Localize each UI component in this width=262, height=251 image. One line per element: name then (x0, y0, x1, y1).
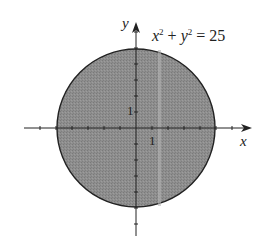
circle-graph: y x 1 1 x2 + y2 = 25 (0, 0, 262, 251)
equation-plus: + (164, 27, 181, 44)
x-tick-label-1: 1 (149, 134, 156, 147)
equation-rhs: = 25 (192, 27, 225, 44)
circle-equation: x2 + y2 = 25 (152, 28, 225, 44)
x-axis-label: x (240, 134, 247, 149)
y-tick-label-1: 1 (127, 104, 134, 117)
equation-y: y (181, 27, 188, 44)
y-axis-label: y (122, 16, 129, 31)
